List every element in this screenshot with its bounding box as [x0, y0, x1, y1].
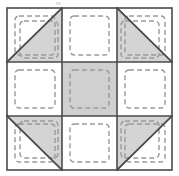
quilt-block-figure	[0, 0, 179, 176]
quilt-block-canvas	[0, 0, 179, 176]
stitch-square-top-center	[70, 16, 109, 55]
stitch-square-middle-left	[15, 70, 55, 108]
shaded-patches	[7, 8, 172, 170]
scan-speck-artifact	[56, 2, 61, 5]
stitch-square-middle-right	[125, 70, 165, 108]
stitch-square-bottom-center	[70, 124, 109, 162]
